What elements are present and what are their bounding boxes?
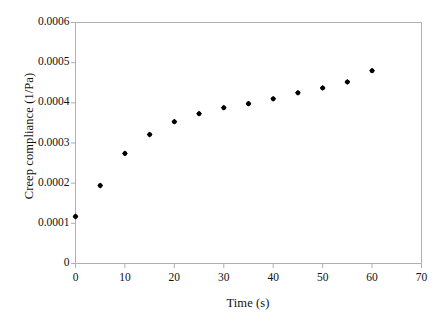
y-tick-label: 0.0006 (10, 15, 70, 27)
y-tick-label: 0.0003 (10, 136, 70, 148)
data-point-core (345, 80, 350, 85)
data-point-core (98, 183, 103, 188)
x-axis-title: Time (s) (75, 296, 421, 311)
data-point-core (246, 101, 251, 106)
y-tick-label: 0.0001 (10, 216, 70, 228)
data-point-core (296, 91, 301, 96)
x-tick-label: 0 (56, 271, 96, 283)
y-tick-label: 0.0005 (10, 55, 70, 67)
data-point-core (123, 151, 128, 156)
plot-area-background (76, 23, 422, 264)
x-tick-label: 30 (204, 271, 244, 283)
data-point-core (197, 111, 202, 116)
x-tick-label: 20 (154, 271, 194, 283)
data-point-core (222, 105, 227, 110)
y-tick-label: 0.0002 (10, 176, 70, 188)
x-tick-label: 60 (352, 271, 392, 283)
x-tick-label: 10 (105, 271, 145, 283)
data-point-core (370, 68, 375, 73)
data-point-core (172, 119, 177, 124)
creep-compliance-chart: Creep compliance (1/Pa) Time (s) 00.0001… (0, 0, 441, 323)
data-point-core (271, 97, 276, 102)
y-tick-label: 0 (10, 256, 70, 268)
data-point-core (320, 86, 325, 91)
data-point-core (147, 132, 152, 137)
x-tick-label: 40 (253, 271, 293, 283)
y-tick-label: 0.0004 (10, 95, 70, 107)
data-point-core (73, 214, 78, 219)
x-tick-label: 50 (303, 271, 343, 283)
x-tick-label: 70 (402, 271, 441, 283)
